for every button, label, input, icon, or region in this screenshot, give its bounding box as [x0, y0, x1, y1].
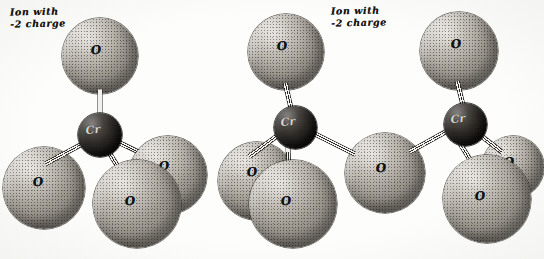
atom-L-O-front [93, 160, 181, 248]
atom-R-O-frontR [443, 155, 531, 243]
bond-R-Cr-right-R-O-bridge [408, 128, 449, 154]
atom-R-O-frontL [249, 160, 337, 248]
right-caption: Ion with-2 charge [331, 4, 387, 28]
atom-L-Cr [78, 113, 122, 157]
left-caption-line2: -2 charge [10, 17, 66, 30]
left-caption-line1: Ion with [10, 5, 66, 18]
right-caption-line2: -2 charge [331, 16, 387, 29]
right-caption-line1: Ion with [331, 4, 387, 17]
atom-R-Cr-right [444, 103, 487, 146]
atom-R-O-topR [420, 12, 498, 90]
atom-L-O-left [3, 147, 85, 229]
left-caption: Ion with-2 charge [10, 5, 66, 29]
atom-R-O-bridge [345, 133, 425, 213]
bond-R-Cr-left-R-O-bridge [311, 130, 356, 156]
atom-R-O-topL [248, 14, 324, 90]
figure-canvas: Ion with-2 chargeIon with-2 chargeOCrOOO… [0, 0, 544, 259]
atom-R-Cr-left [274, 106, 317, 149]
atom-L-O-top [62, 18, 138, 94]
